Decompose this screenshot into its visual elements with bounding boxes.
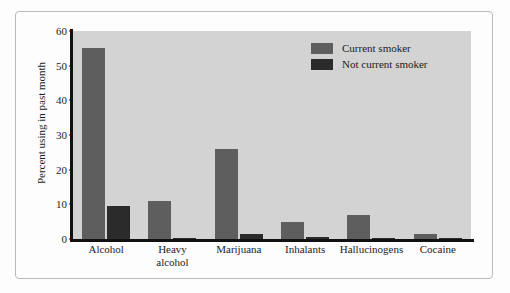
- x-axis-label: Inhalants: [272, 243, 338, 268]
- bar: [173, 238, 196, 239]
- x-axis-line: [70, 239, 474, 242]
- chart-legend: Current smoker Not current smoker: [311, 42, 428, 74]
- x-axis-label: Marijuana: [206, 243, 272, 268]
- y-axis-tick-label: 60: [56, 25, 67, 37]
- bar: [372, 238, 395, 239]
- bar: [240, 234, 263, 239]
- y-axis-tick-label: 50: [56, 60, 67, 72]
- x-axis-label: Heavyalcohol: [139, 243, 205, 268]
- legend-item-current-smoker: Current smoker: [311, 42, 428, 54]
- x-axis-labels: AlcoholHeavyalcoholMarijuanaInhalantsHal…: [73, 243, 471, 268]
- chart-figure: Percent using in past month 010203040506…: [15, 11, 493, 279]
- bar-group: [139, 31, 205, 239]
- y-axis-tick-label: 40: [56, 94, 67, 106]
- y-axis-tick-label: 10: [56, 198, 67, 210]
- legend-swatch-icon: [311, 43, 333, 54]
- bar: [215, 149, 238, 239]
- legend-label: Current smoker: [342, 42, 411, 54]
- bar: [107, 206, 130, 239]
- bar: [439, 238, 462, 239]
- x-axis-label: Alcohol: [73, 243, 139, 268]
- y-axis-title: Percent using in past month: [35, 38, 47, 208]
- bar-group: [206, 31, 272, 239]
- bar: [306, 237, 329, 239]
- bar-group: [73, 31, 139, 239]
- legend-swatch-icon: [311, 59, 333, 70]
- bar: [82, 48, 105, 239]
- bar: [148, 201, 171, 239]
- bar: [414, 234, 437, 239]
- bar: [347, 215, 370, 239]
- y-axis-tick-label: 0: [62, 233, 68, 245]
- x-axis-label: Hallucinogens: [338, 243, 404, 268]
- bar: [281, 222, 304, 239]
- y-axis-tick-label: 20: [56, 164, 67, 176]
- y-axis-tick-label: 30: [56, 129, 67, 141]
- legend-label: Not current smoker: [342, 58, 428, 70]
- x-axis-label: Cocaine: [405, 243, 471, 268]
- legend-item-not-current-smoker: Not current smoker: [311, 58, 428, 70]
